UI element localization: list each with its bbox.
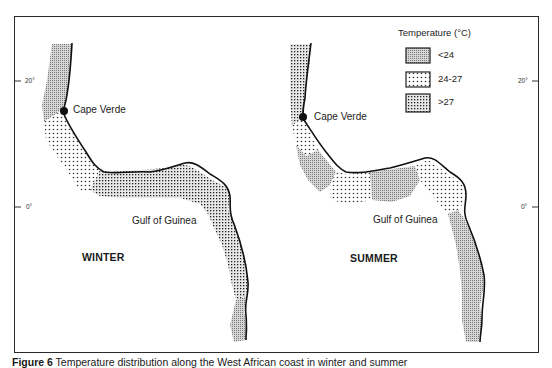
summer-zone-mid-2 [330, 172, 372, 204]
legend-swatch-warm [406, 94, 430, 112]
summer-zone-cool-2 [370, 166, 420, 202]
figure-caption: Figure 6 Temperature distribution along … [12, 356, 407, 368]
winter-label-cape-verde: Cape Verde [73, 104, 126, 115]
right-lat-label-20: 20° [518, 77, 528, 84]
left-lat-label-20: 20° [25, 77, 35, 84]
summer-zone-warm-north [290, 44, 311, 126]
winter-panel [42, 43, 248, 342]
legend-label-cool: <24 [438, 49, 454, 60]
legend-label-mid: 24-27 [438, 73, 462, 84]
summer-season-label: SUMMER [350, 252, 398, 264]
legend-swatch-mid [406, 72, 430, 87]
winter-cape-verde-marker [60, 107, 68, 115]
winter-label-gulf-of-guinea: Gulf of Guinea [132, 215, 196, 226]
right-lat-label-0: 0° [521, 203, 527, 210]
left-lat-label-0: 0° [26, 203, 32, 210]
winter-season-label: WINTER [82, 251, 125, 263]
winter-zone-mid [44, 110, 100, 192]
summer-zone-cool-1 [296, 145, 336, 192]
summer-label-cape-verde: Cape Verde [314, 111, 367, 122]
summer-zone-mid-1 [292, 118, 318, 156]
summer-cape-verde-marker [299, 113, 307, 121]
summer-panel [290, 43, 485, 342]
legend-swatch-cool [406, 48, 430, 63]
legend-label-warm: >27 [438, 96, 454, 107]
legend-title: Temperature (°C) [398, 27, 471, 38]
summer-zone-cool-south [448, 210, 484, 342]
summer-label-gulf-of-guinea: Gulf of Guinea [373, 214, 437, 225]
caption-figure-number: Figure 6 [12, 356, 53, 368]
summer-zone-mid-3 [415, 160, 466, 214]
caption-text: Temperature distribution along the West … [56, 356, 408, 368]
